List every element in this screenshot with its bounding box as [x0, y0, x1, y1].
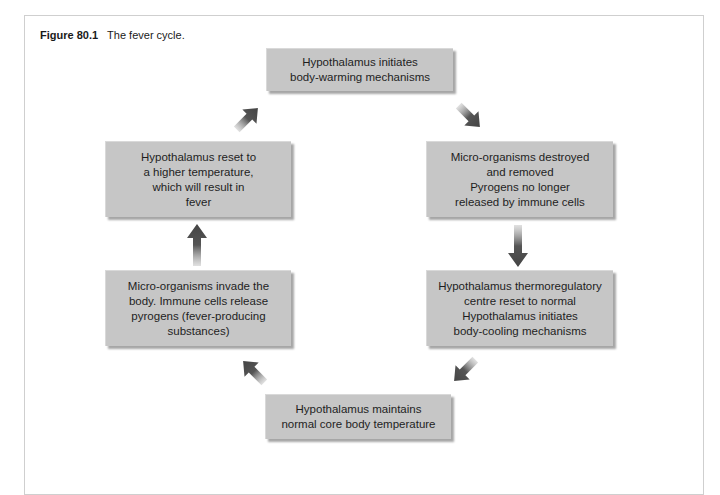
node-line: body-warming mechanisms: [290, 70, 430, 85]
figure-title: The fever cycle.: [107, 29, 185, 41]
figure-caption: Figure 80.1The fever cycle.: [40, 29, 185, 41]
node-microorganisms-destroyed: Micro-organisms destroyed and removed Py…: [426, 141, 613, 217]
node-line: and removed: [451, 165, 590, 180]
node-line: Hypothalamus maintains: [281, 402, 435, 417]
node-line: Micro-organisms invade the: [128, 279, 269, 294]
node-line: a higher temperature,: [141, 165, 256, 180]
node-line: fever: [141, 195, 256, 210]
node-normal-temperature: Hypothalamus maintains normal core body …: [265, 394, 451, 439]
node-thermoregulatory-reset: Hypothalamus thermoregulatory centre res…: [426, 270, 613, 346]
node-line: body-cooling mechanisms: [438, 324, 602, 339]
node-line: released by immune cells: [451, 195, 590, 210]
node-line: which will result in: [141, 180, 256, 195]
node-line: normal core body temperature: [281, 417, 435, 432]
node-microorganisms-invade: Micro-organisms invade the body. Immune …: [105, 270, 291, 346]
node-hypothalamus-reset-higher: Hypothalamus reset to a higher temperatu…: [105, 141, 291, 217]
node-line: body. Immune cells release: [128, 294, 269, 309]
node-line: Pyrogens no longer: [451, 180, 590, 195]
node-line: pyrogens (fever-producing: [128, 309, 269, 324]
node-line: Hypothalamus initiates: [290, 55, 430, 70]
node-body-warming: Hypothalamus initiates body-warming mech…: [266, 48, 453, 91]
node-line: substances): [128, 324, 269, 339]
node-line: centre reset to normal: [438, 294, 602, 309]
node-line: Hypothalamus initiates: [438, 309, 602, 324]
figure-number: Figure 80.1: [40, 29, 98, 41]
node-line: Hypothalamus thermoregulatory: [438, 279, 602, 294]
node-line: Hypothalamus reset to: [141, 150, 256, 165]
node-line: Micro-organisms destroyed: [451, 150, 590, 165]
